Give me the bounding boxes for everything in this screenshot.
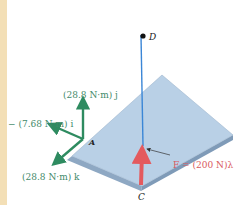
label-point-d: D [148,32,156,42]
label-point-a: A [88,137,95,147]
label-moment-j: (28.8 N·m) j [63,90,118,100]
label-point-c: C [138,192,145,202]
label-moment-k: (28.8 N·m) k [22,172,80,182]
point-d-dot [140,33,145,38]
label-force: F = (200 N)λ [173,160,233,170]
force-arrow [141,152,142,185]
label-moment-i: − (7.68 N·m) i [8,119,73,129]
statics-diagram: D A C (28.8 N·m) j − (7.68 N·m) i (28.8 … [0,0,248,205]
